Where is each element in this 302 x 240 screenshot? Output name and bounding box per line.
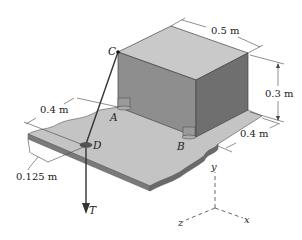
label-point-b: B bbox=[176, 140, 185, 152]
label-axis-z: z bbox=[177, 217, 184, 228]
label-axis-y: y bbox=[210, 161, 217, 172]
label-force-t: T bbox=[89, 204, 97, 216]
hinge-a bbox=[117, 98, 131, 110]
label-point-a: A bbox=[109, 111, 118, 123]
label-point-c: C bbox=[108, 45, 116, 57]
label-cable-offset: 0.125 m bbox=[16, 171, 58, 182]
coordinate-axes bbox=[186, 172, 243, 220]
label-axis-x: x bbox=[244, 214, 250, 225]
point-c-marker bbox=[116, 50, 120, 54]
point-d-marker bbox=[80, 143, 92, 148]
label-plate-offset: 0.4 m bbox=[40, 104, 69, 115]
label-box-depth: 0.4 m bbox=[240, 128, 269, 139]
label-box-height: 0.3 m bbox=[265, 88, 294, 99]
label-box-width: 0.5 m bbox=[211, 25, 240, 36]
label-point-d: D bbox=[92, 139, 102, 151]
diagram-figure: 0.5 m 0.3 m 0.4 m 0.4 m 0.125 m C A B D … bbox=[0, 0, 302, 240]
hinge-b bbox=[182, 127, 196, 139]
